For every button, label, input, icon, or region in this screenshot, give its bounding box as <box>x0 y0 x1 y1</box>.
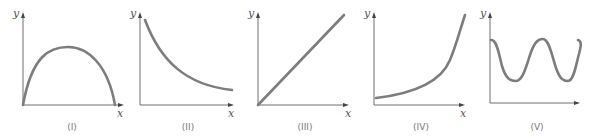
sine-wave <box>491 39 581 81</box>
graph-caption: (III) <box>298 122 313 132</box>
y-axis-label: y <box>12 7 20 20</box>
graph-5: y (V) <box>479 7 581 132</box>
y-axis-arrow-icon <box>138 12 142 18</box>
x-axis-arrow-icon <box>574 101 580 105</box>
graph-1: y x (I) <box>12 7 124 132</box>
graph-caption: (II) <box>182 122 194 132</box>
y-axis-arrow-icon <box>372 12 376 18</box>
y-axis-arrow-icon <box>21 12 25 18</box>
graph-4: y x (IV) <box>363 7 467 132</box>
y-axis-label: y <box>479 7 487 20</box>
x-axis-label: x <box>345 107 352 120</box>
y-axis-label: y <box>363 7 371 20</box>
graph-caption: (V) <box>530 122 543 132</box>
graph-2: y x (II) <box>129 7 235 132</box>
x-axis-label: x <box>117 107 124 120</box>
exponential-curve <box>376 15 465 98</box>
y-axis-label: y <box>247 7 255 20</box>
x-axis-label: x <box>460 107 467 120</box>
y-axis-arrow-icon <box>256 12 260 18</box>
graph-3: y x (III) <box>247 7 352 132</box>
parabola-curve <box>23 47 115 105</box>
y-axis-arrow-icon <box>488 12 492 18</box>
graph-caption: (I) <box>67 122 77 132</box>
x-axis-label: x <box>228 107 235 120</box>
linear-line <box>258 15 344 105</box>
graphs-figure: y x (I) y x (II) y x (III) y x (IV) <box>0 0 593 139</box>
decay-curve <box>145 20 232 90</box>
graph-caption: (IV) <box>413 122 429 132</box>
y-axis-label: y <box>129 7 137 20</box>
